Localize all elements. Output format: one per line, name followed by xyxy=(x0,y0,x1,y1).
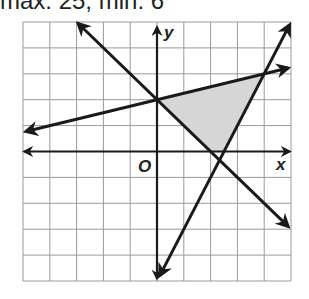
y-axis-label: y xyxy=(163,23,175,42)
coordinate-plane: y x O xyxy=(0,0,309,299)
origin-label: O xyxy=(138,157,151,176)
line-descending xyxy=(78,23,288,226)
x-axis-label: x xyxy=(275,155,287,174)
line-steep xyxy=(160,25,290,276)
axes xyxy=(24,27,289,278)
